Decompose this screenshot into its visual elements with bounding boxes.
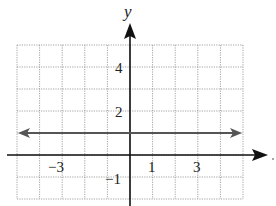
coordinate-plane: y 4 2 −1 −3 1 3: [0, 0, 276, 206]
y-axis-label: y: [122, 2, 132, 21]
x-tick-label-3: 3: [193, 159, 201, 175]
y-tick-label-2: 2: [115, 104, 123, 120]
y-tick-label-neg1: −1: [105, 171, 121, 187]
x-tick-label-neg3: −3: [48, 159, 64, 175]
x-tick-label-1: 1: [148, 159, 156, 175]
y-tick-label-4: 4: [115, 60, 123, 76]
stray-dot: [272, 158, 274, 160]
